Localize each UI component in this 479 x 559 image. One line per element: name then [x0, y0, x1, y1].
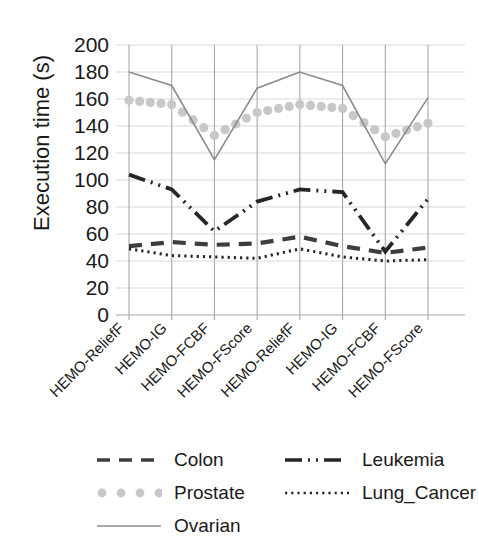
legend-label-prostate: Prostate: [174, 482, 245, 504]
execution-time-line-chart: 020406080100120140160180200HEMO-ReliefFH…: [0, 0, 479, 440]
legend-label-leukemia: Leukemia: [362, 449, 444, 471]
legend-label-colon: Colon: [174, 449, 224, 471]
y-tick-label: 100: [74, 168, 109, 191]
x-tick-label: HEMO-ReliefF: [46, 319, 127, 400]
y-tick-label: 0: [97, 303, 109, 326]
legend-item-lung-cancer: Lung_Cancer: [284, 478, 476, 508]
legend-item-colon: Colon: [96, 445, 224, 475]
dash-dot-line-swatch: [284, 450, 350, 470]
y-tick-label: 160: [74, 87, 109, 110]
fine-dotted-line-swatch: [284, 483, 350, 503]
y-tick-label: 140: [74, 114, 109, 137]
plot-area: 020406080100120140160180200HEMO-ReliefFH…: [0, 0, 479, 440]
series-prostate: [124, 96, 432, 142]
data-point-marker: [338, 104, 347, 113]
data-point-marker: [285, 102, 294, 111]
data-point-marker: [391, 129, 400, 138]
data-point-marker: [167, 100, 176, 109]
data-point-marker: [413, 122, 422, 131]
data-point-marker: [242, 114, 251, 123]
legend-item-leukemia: Leukemia: [284, 445, 444, 475]
data-point-marker: [295, 100, 304, 109]
data-point-marker: [135, 97, 144, 106]
data-point-marker: [221, 125, 230, 134]
y-tick-label: 80: [86, 195, 109, 218]
y-tick-label: 120: [74, 141, 109, 164]
data-point-marker: [146, 98, 155, 107]
legend-item-prostate: Prostate: [96, 478, 245, 508]
series-line: [129, 72, 428, 164]
y-tick-label: 60: [86, 222, 109, 245]
data-point-marker: [199, 123, 208, 132]
y-tick-label: 40: [86, 249, 109, 272]
y-tick-label: 200: [74, 33, 109, 56]
series-leukemia: [129, 175, 428, 252]
series-line: [129, 175, 428, 252]
data-point-marker: [306, 101, 315, 110]
chart-page: Execution time (s) 020406080100120140160…: [0, 0, 479, 559]
series-ovarian: [129, 72, 428, 164]
x-tick-label: HEMO-FScore: [345, 319, 427, 401]
x-tick-label: HEMO-FScore: [174, 319, 256, 401]
y-tick-label: 20: [86, 276, 109, 299]
y-tick-label: 180: [74, 60, 109, 83]
legend-label-lung-cancer: Lung_Cancer: [362, 482, 476, 504]
data-point-marker: [253, 108, 262, 117]
data-point-marker: [327, 103, 336, 112]
legend-label-ovarian: Ovarian: [174, 515, 241, 537]
dotted-circles-swatch: [96, 483, 162, 503]
data-point-marker: [381, 132, 390, 141]
legend-item-ovarian: Ovarian: [96, 511, 241, 541]
data-point-marker: [317, 102, 326, 111]
data-point-marker: [423, 119, 432, 128]
data-point-marker: [124, 96, 133, 105]
x-tick-label: HEMO-ReliefF: [217, 319, 298, 400]
data-point-marker: [156, 99, 165, 108]
data-point-marker: [274, 104, 283, 113]
solid-line-swatch: [96, 516, 162, 536]
chart-legend: Colon Prostate Ovarian Leuk: [96, 443, 476, 553]
data-point-marker: [370, 125, 379, 134]
data-point-marker: [210, 131, 219, 140]
dashed-line-swatch: [96, 450, 162, 470]
data-point-marker: [263, 106, 272, 115]
